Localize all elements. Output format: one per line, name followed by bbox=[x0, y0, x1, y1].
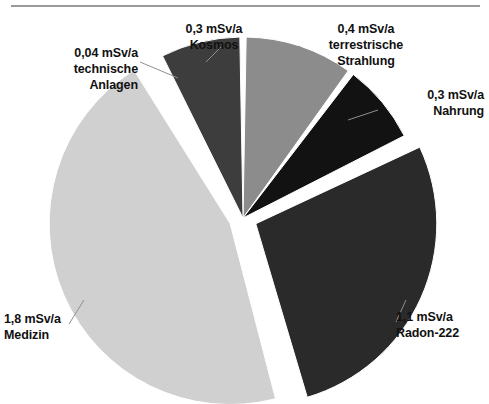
label-name-terrestrisch-2: Strahlung bbox=[300, 54, 432, 70]
label-name-nahrung: Nahrung bbox=[380, 104, 484, 120]
label-name-technische-1: technische bbox=[6, 62, 138, 78]
slice-label-kosmos: 0,3 mSv/a Kosmos bbox=[152, 22, 276, 54]
slice-label-nahrung: 0,3 mSv/a Nahrung bbox=[380, 88, 484, 120]
label-value-radon: 1,1 mSv/a bbox=[396, 310, 486, 326]
label-value-technische: 0,04 mSv/a bbox=[6, 46, 138, 62]
chart-canvas: 0,04 mSv/a technische Anlagen 0,3 mSv/a … bbox=[0, 0, 489, 404]
label-name-radon: Radon-222 bbox=[396, 326, 486, 342]
slice-label-radon-222: 1,1 mSv/a Radon-222 bbox=[396, 310, 486, 342]
label-value-medizin: 1,8 mSv/a bbox=[4, 312, 90, 328]
label-value-nahrung: 0,3 mSv/a bbox=[380, 88, 484, 104]
label-name-terrestrisch-1: terrestrische bbox=[300, 38, 432, 54]
slice-label-technische-anlagen: 0,04 mSv/a technische Anlagen bbox=[6, 46, 138, 94]
label-value-terrestrisch: 0,4 mSv/a bbox=[300, 22, 432, 38]
slice-label-medizin: 1,8 mSv/a Medizin bbox=[4, 312, 90, 344]
label-name-technische-2: Anlagen bbox=[6, 78, 138, 94]
label-name-kosmos: Kosmos bbox=[152, 38, 276, 54]
label-value-kosmos: 0,3 mSv/a bbox=[152, 22, 276, 38]
label-name-medizin: Medizin bbox=[4, 328, 90, 344]
slice-label-terrestrische-strahlung: 0,4 mSv/a terrestrische Strahlung bbox=[300, 22, 432, 70]
